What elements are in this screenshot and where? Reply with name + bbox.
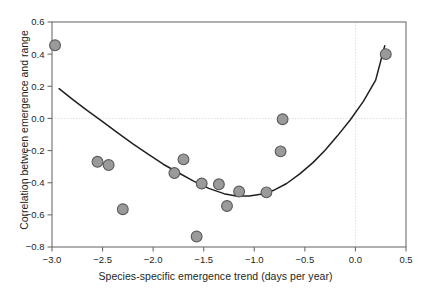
y-axis-label-wrap: Correlation between emergence and range bbox=[0, 0, 22, 260]
data-point bbox=[277, 114, 288, 125]
gridlines bbox=[52, 22, 406, 247]
data-point bbox=[92, 156, 103, 167]
x-axis-ticks: −3.0−2.5−2.0−1.5−1.0−0.50.00.5 bbox=[43, 247, 413, 265]
data-point bbox=[169, 168, 180, 179]
x-tick-label: −3.0 bbox=[43, 254, 62, 265]
data-point bbox=[50, 40, 61, 51]
x-tick-label: −0.5 bbox=[295, 254, 314, 265]
data-point bbox=[222, 201, 233, 212]
data-point bbox=[178, 154, 189, 165]
y-tick-label: 0.4 bbox=[31, 49, 44, 60]
data-point bbox=[103, 160, 114, 171]
data-point bbox=[275, 146, 286, 157]
x-tick-label: −2.0 bbox=[144, 254, 163, 265]
data-point bbox=[213, 179, 224, 190]
plot-border bbox=[52, 22, 406, 247]
x-tick-label: −1.0 bbox=[245, 254, 264, 265]
x-tick-label: 0.0 bbox=[349, 254, 362, 265]
data-point bbox=[196, 178, 207, 189]
data-points bbox=[50, 40, 392, 242]
data-point bbox=[261, 187, 272, 198]
data-point bbox=[191, 231, 202, 242]
y-tick-label: 0.2 bbox=[31, 81, 44, 92]
x-tick-label: −1.5 bbox=[194, 254, 213, 265]
y-tick-label: 0.6 bbox=[31, 16, 44, 27]
data-point bbox=[234, 186, 245, 197]
data-point bbox=[117, 204, 128, 215]
x-tick-label: 0.5 bbox=[399, 254, 412, 265]
y-axis-label: Correlation between emergence and range bbox=[18, 10, 30, 250]
x-tick-label: −2.5 bbox=[93, 254, 112, 265]
quadratic-fit-line bbox=[59, 46, 385, 196]
plot-frame bbox=[52, 22, 406, 247]
data-point bbox=[380, 49, 391, 60]
chart-figure: −3.0−2.5−2.0−1.5−1.0−0.50.00.5 0.60.40.2… bbox=[0, 0, 431, 298]
y-tick-label: 0.0 bbox=[31, 113, 44, 124]
fit-curve bbox=[59, 46, 385, 196]
scatter-plot: −3.0−2.5−2.0−1.5−1.0−0.50.00.5 0.60.40.2… bbox=[0, 0, 431, 298]
x-axis-label: Species-specific emergence trend (days p… bbox=[0, 270, 431, 282]
